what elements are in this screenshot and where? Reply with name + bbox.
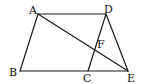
segment-AE <box>38 14 128 71</box>
label-F: F <box>97 38 105 51</box>
label-C: C <box>83 72 91 84</box>
label-B: B <box>9 66 17 79</box>
segment-AB <box>20 14 38 71</box>
label-A: A <box>28 4 38 17</box>
segment-DE <box>106 14 128 71</box>
label-E: E <box>127 72 135 84</box>
geometry-figure: A D B C E F <box>0 0 143 84</box>
label-D: D <box>104 3 113 16</box>
